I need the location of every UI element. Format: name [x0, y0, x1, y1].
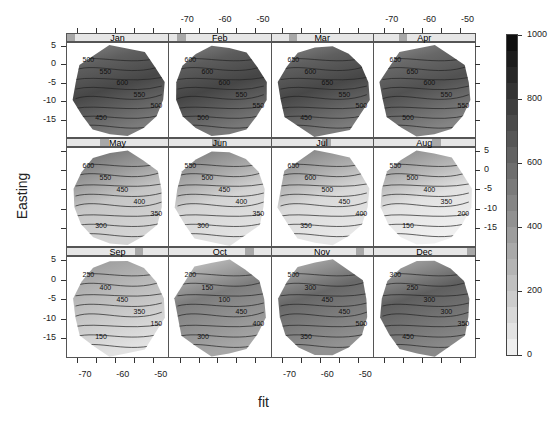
panel-jul: 650600500450400350 — [271, 147, 374, 247]
contour-label: 450 — [338, 308, 350, 315]
contour-label: 500 — [202, 174, 214, 181]
axis-tick — [358, 358, 359, 363]
contour-label: 600 — [117, 79, 129, 86]
contour-label: 350 — [151, 210, 163, 217]
contour-label: 550 — [338, 91, 350, 98]
axis-tick — [320, 358, 321, 363]
strip-label: Apr — [417, 33, 431, 43]
axis-tick — [61, 209, 66, 210]
axis-tick — [475, 209, 480, 210]
contour-label: 300 — [304, 284, 316, 291]
contour-label: 400 — [100, 284, 112, 291]
contour-map: 650650600550550500 — [374, 43, 476, 138]
axis-tick — [61, 299, 66, 300]
contour-label: 500 — [197, 114, 209, 121]
tick-label: -5 — [48, 77, 56, 87]
contour-label: 150 — [151, 320, 163, 327]
panel-feb: 600600600550550500 — [168, 42, 271, 138]
contour-label: 650 — [321, 79, 333, 86]
strip-label: Sep — [110, 247, 126, 257]
axis-tick — [518, 163, 522, 164]
axis-tick — [475, 260, 480, 261]
colorbar-band — [507, 147, 517, 163]
axis-tick — [61, 260, 66, 261]
axis-tick — [236, 28, 237, 33]
axis-tick — [403, 358, 404, 363]
panel-apr: 650650600550550500 — [373, 42, 476, 138]
strip-shingle-marker — [432, 139, 440, 146]
tick-label: -10 — [43, 313, 56, 323]
contour-label: 500 — [287, 271, 299, 278]
strip-nov: Nov — [271, 247, 374, 256]
x-axis-label: fit — [258, 394, 269, 410]
contour-label: 400 — [423, 186, 435, 193]
contour-label: 250 — [406, 284, 418, 291]
contour-label: 400 — [355, 210, 367, 217]
axis-tick — [475, 46, 480, 47]
contour-label: 600 — [219, 79, 231, 86]
colorbar-band — [507, 115, 517, 131]
tick-label: -50 — [457, 14, 477, 24]
strip-dec: Dec — [373, 247, 476, 256]
colorbar-band — [507, 195, 517, 211]
contour-map: 650600500450400350 — [272, 148, 374, 247]
contour-map: 300250300300350450 — [374, 257, 476, 358]
contour-label: 650 — [287, 162, 299, 169]
contour-label: 550 — [185, 162, 197, 169]
axis-tick — [475, 83, 480, 84]
colorbar-band — [507, 275, 517, 291]
panel-may: 600550450400350300 — [66, 147, 169, 247]
axis-tick — [199, 358, 200, 363]
contour-map: 600600600550550500 — [169, 43, 271, 138]
tick-label: -10 — [484, 203, 497, 213]
axis-tick — [153, 358, 154, 363]
axis-tick — [518, 355, 522, 356]
y-axis-label: Easting — [14, 166, 30, 226]
tick-label: -5 — [48, 293, 56, 303]
axis-tick — [61, 151, 66, 152]
strip-label: Aug — [416, 138, 432, 148]
contour-label: 600 — [83, 162, 95, 169]
contour-label: 200 — [185, 271, 197, 278]
axis-tick — [217, 358, 218, 363]
tick-label: 0 — [51, 58, 56, 68]
axis-tick — [358, 28, 359, 33]
contour-label: 550 — [253, 102, 265, 109]
axis-tick — [61, 64, 66, 65]
axis-tick — [180, 28, 181, 33]
axis-tick — [339, 358, 340, 363]
contour-label: 350 — [300, 222, 312, 229]
axis-tick — [475, 151, 480, 152]
colorbar-band — [507, 67, 517, 83]
tick-label: -70 — [279, 369, 299, 379]
strip-may: May — [66, 138, 169, 147]
axis-tick — [339, 28, 340, 33]
strip-mar: Mar — [271, 33, 374, 42]
colorbar-tick-label: 1000 — [527, 29, 547, 39]
contour-map: 550500400350200150 — [374, 148, 476, 247]
contour-label: 550 — [134, 91, 146, 98]
contour-label: 650 — [406, 68, 418, 75]
axis-tick — [518, 227, 522, 228]
axis-tick — [475, 101, 480, 102]
tick-label: -15 — [43, 332, 56, 342]
tick-label: 0 — [484, 164, 489, 174]
axis-tick — [96, 358, 97, 363]
axis-tick — [282, 28, 283, 33]
contour-label: 550 — [440, 91, 452, 98]
strip-jan: Jan — [66, 33, 169, 42]
axis-tick — [384, 358, 385, 363]
axis-tick — [199, 28, 200, 33]
strip-shingle-marker — [289, 34, 297, 41]
colorbar-tick-label: 0 — [527, 349, 532, 359]
contour-label: 650 — [389, 56, 401, 63]
strip-jul: Jul — [271, 138, 374, 147]
axis-tick — [301, 358, 302, 363]
axis-tick — [475, 64, 480, 65]
contour-label: 500 — [355, 102, 367, 109]
contour-label: 250 — [83, 271, 95, 278]
axis-tick — [475, 120, 480, 121]
strip-shingle-marker — [100, 139, 108, 146]
colorbar-band — [507, 307, 517, 323]
contour-label: 150 — [95, 333, 107, 340]
